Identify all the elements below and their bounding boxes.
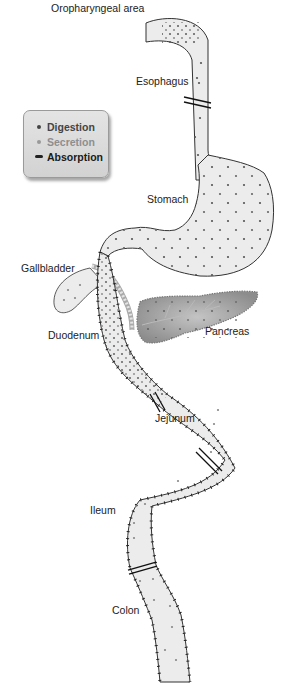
legend-label: Secretion (47, 136, 95, 148)
legend-item-secretion: Secretion (35, 134, 108, 149)
label-jejunum: Jejunum (155, 412, 195, 424)
stomach-shape (100, 155, 274, 276)
digestive-tract-diagram (0, 0, 283, 693)
legend: Digestion Secretion Absorption (23, 110, 109, 178)
legend-label: Absorption (47, 151, 103, 163)
secretion-dot-icon (37, 140, 41, 144)
label-gallbladder: Gallbladder (21, 262, 75, 274)
legend-item-absorption: Absorption (35, 149, 108, 164)
label-ileum: Ileum (90, 504, 116, 516)
label-pancreas: Pancreas (205, 325, 249, 337)
digestion-dot-icon (37, 125, 41, 129)
label-esophagus: Esophagus (136, 75, 189, 87)
label-colon: Colon (112, 604, 139, 616)
legend-item-digestion: Digestion (35, 119, 108, 134)
absorption-tick-icon (35, 155, 43, 158)
legend-label: Digestion (47, 121, 95, 133)
label-duodenum: Duodenum (48, 329, 99, 341)
label-stomach: Stomach (147, 193, 188, 205)
label-oropharyngeal: Oropharyngeal area (51, 2, 144, 14)
